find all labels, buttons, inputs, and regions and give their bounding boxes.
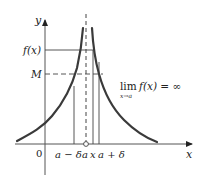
infinite-limit-diagram: y x 0 f(x) M a − δ a x a + δ lim x→a f(x…: [0, 0, 213, 181]
x-label: x: [90, 149, 96, 160]
x-axis-label: x: [186, 148, 193, 161]
a-label: a: [82, 149, 88, 160]
lim-text: lim: [120, 80, 137, 92]
open-point-at-a: [84, 142, 89, 147]
a-minus-delta-label: a − δ: [55, 149, 82, 160]
m-label: M: [30, 68, 42, 80]
y-axis-label: y: [34, 14, 42, 27]
a-plus-delta-label: a + δ: [98, 149, 125, 160]
fx-label: f(x): [22, 44, 41, 56]
origin-label: 0: [36, 148, 42, 159]
lim-subscript: x→a: [120, 92, 132, 99]
lim-expression: f(x) = ∞: [138, 80, 181, 92]
